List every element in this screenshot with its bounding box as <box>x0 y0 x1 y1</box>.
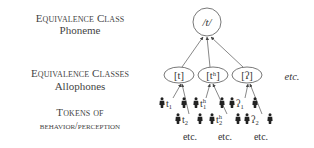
token-t1: t1 <box>166 98 172 110</box>
person-icon <box>235 113 240 124</box>
token-etc: etc. <box>218 131 232 142</box>
person-icon <box>197 113 202 124</box>
person-icon <box>267 113 272 124</box>
allophone-node-t: [t] <box>164 67 194 83</box>
person-icon <box>244 113 249 124</box>
token-glottal2: ʔ2 <box>251 114 259 126</box>
token-etc: etc. <box>254 131 268 142</box>
token-to-allophone-arrows <box>173 84 262 114</box>
token-th1: th1 <box>200 97 207 110</box>
person-icon <box>193 97 198 108</box>
allophone-to-phoneme-arrows <box>182 37 243 67</box>
phoneme-symbol: /t/ <box>201 16 212 28</box>
token-etc: etc. <box>183 131 197 142</box>
person-icon <box>175 113 180 124</box>
person-icon <box>229 97 234 108</box>
person-icon <box>159 97 164 108</box>
allophone-symbol: [tʰ] <box>206 70 219 81</box>
token-th2: th2 <box>216 113 223 126</box>
allophone-node-th: [tʰ] <box>198 67 228 83</box>
person-icon <box>252 97 257 108</box>
token-glottal1: ʔ1 <box>236 98 244 110</box>
allophone-node-glottal: [ʔ] <box>232 67 262 83</box>
person-icon <box>209 113 214 124</box>
allophone-symbol: [ʔ] <box>241 70 253 81</box>
phoneme-hierarchy-diagram: /t/ [t] [tʰ] [ʔ] etc. t1 t2 etc. <box>0 0 314 148</box>
allophones-etc: etc. <box>285 71 300 82</box>
phoneme-node: /t/ <box>193 8 221 36</box>
allophone-symbol: [t] <box>174 70 184 81</box>
token-t2: t2 <box>182 114 188 126</box>
